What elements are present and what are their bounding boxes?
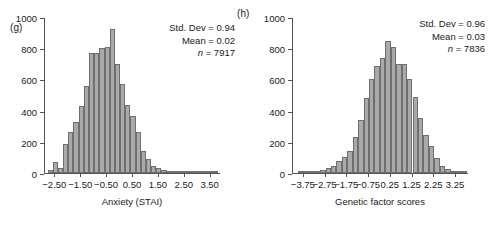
y-tick-h-0 xyxy=(288,174,292,175)
x-tick-h-6 xyxy=(433,174,434,177)
y-tick-g-3 xyxy=(40,80,44,81)
panel-label-h: (h) xyxy=(237,8,250,19)
x-tick-h-5 xyxy=(412,174,413,177)
x-tick-label-h-1: −2.75 xyxy=(313,179,337,190)
x-tick-label-g-6: 3.50 xyxy=(200,179,219,190)
x-tick-h-7 xyxy=(455,174,456,177)
panel-label-g: (g) xyxy=(10,22,23,33)
x-tick-label-h-5: 1.25 xyxy=(402,179,421,190)
y-tick-label-g-0: 0 xyxy=(32,169,37,180)
x-tick-h-1 xyxy=(325,174,326,177)
y-tick-label-g-2: 400 xyxy=(21,106,37,117)
y-tick-g-4 xyxy=(40,49,44,50)
y-tick-g-1 xyxy=(40,143,44,144)
n-value-g: = 7917 xyxy=(203,47,235,58)
x-tick-g-4 xyxy=(158,174,159,177)
n-text-h: n = 7836 xyxy=(419,43,485,56)
y-tick-label-h-5: 1000 xyxy=(264,13,285,24)
y-tick-h-1 xyxy=(288,143,292,144)
x-axis-line-h xyxy=(292,173,468,174)
x-axis-title-h: Genetic factor scores xyxy=(335,196,425,207)
n-text-g: n = 7917 xyxy=(169,47,235,60)
x-tick-label-h-6: 2.25 xyxy=(424,179,443,190)
x-tick-label-h-7: 3.25 xyxy=(446,179,465,190)
x-tick-g-3 xyxy=(132,174,133,177)
x-tick-label-g-3: 0.50 xyxy=(123,179,142,190)
x-tick-h-3 xyxy=(368,174,369,177)
x-tick-h-0 xyxy=(303,174,304,177)
x-tick-g-0 xyxy=(54,174,55,177)
x-tick-label-h-2: −1.75 xyxy=(334,179,358,190)
y-tick-h-5 xyxy=(288,18,292,19)
x-tick-label-g-1: −1.50 xyxy=(68,179,92,190)
y-tick-h-2 xyxy=(288,112,292,113)
histogram-bar xyxy=(461,171,466,173)
n-value-h: = 7836 xyxy=(453,43,485,54)
x-tick-g-2 xyxy=(106,174,107,177)
std-dev-text-g: Std. Dev = 0.94 xyxy=(169,22,235,35)
x-tick-h-2 xyxy=(346,174,347,177)
y-tick-h-4 xyxy=(288,49,292,50)
x-tick-h-4 xyxy=(390,174,391,177)
y-tick-label-g-4: 800 xyxy=(21,44,37,55)
mean-text-h: Mean = 0.03 xyxy=(419,31,485,44)
y-tick-label-g-1: 200 xyxy=(21,137,37,148)
y-tick-label-h-0: 0 xyxy=(280,169,285,180)
mean-text-g: Mean = 0.02 xyxy=(169,35,235,48)
histogram-figure: (g) Anxiety (STAI) 02004006008001000−2.5… xyxy=(0,0,497,232)
x-tick-label-g-4: 1.50 xyxy=(149,179,168,190)
y-tick-h-3 xyxy=(288,80,292,81)
x-axis-title-g: Anxiety (STAI) xyxy=(102,196,163,207)
y-tick-g-2 xyxy=(40,112,44,113)
x-tick-label-h-3: −0.75 xyxy=(356,179,380,190)
panel-g: (g) Anxiety (STAI) 02004006008001000−2.5… xyxy=(0,0,249,232)
y-tick-g-0 xyxy=(40,174,44,175)
x-tick-label-g-5: 2.50 xyxy=(175,179,194,190)
y-tick-label-h-2: 400 xyxy=(269,106,285,117)
x-tick-g-5 xyxy=(184,174,185,177)
panel-h: (h) Genetic factor scores 02004006008001… xyxy=(248,0,497,232)
x-tick-g-6 xyxy=(210,174,211,177)
stats-block-g: Std. Dev = 0.94 Mean = 0.02 n = 7917 xyxy=(169,22,235,60)
x-tick-g-1 xyxy=(80,174,81,177)
y-tick-label-h-4: 800 xyxy=(269,44,285,55)
x-tick-label-g-0: −2.50 xyxy=(42,179,66,190)
std-dev-text-h: Std. Dev = 0.96 xyxy=(419,18,485,31)
y-tick-label-h-3: 600 xyxy=(269,75,285,86)
x-tick-label-h-0: −3.75 xyxy=(291,179,315,190)
y-tick-label-g-3: 600 xyxy=(21,75,37,86)
x-tick-label-h-4: 0.25 xyxy=(381,179,400,190)
stats-block-h: Std. Dev = 0.96 Mean = 0.03 n = 7836 xyxy=(419,18,485,56)
y-tick-g-5 xyxy=(40,18,44,19)
histogram-bar xyxy=(213,171,218,173)
x-tick-label-g-2: −0.50 xyxy=(94,179,118,190)
y-tick-label-g-5: 1000 xyxy=(16,13,37,24)
y-tick-label-h-1: 200 xyxy=(269,137,285,148)
